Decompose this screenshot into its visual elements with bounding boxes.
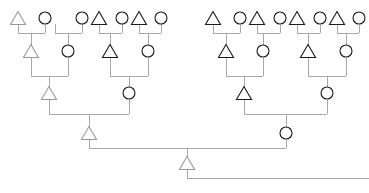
circle-node-icon[interactable] — [340, 45, 352, 57]
triangle-node-icon[interactable] — [250, 12, 265, 25]
circle-node-icon[interactable] — [116, 12, 128, 24]
circle-node-icon[interactable] — [39, 12, 51, 24]
triangle-node-icon[interactable] — [180, 157, 195, 170]
circle-node-icon[interactable] — [155, 12, 167, 24]
triangle-node-icon[interactable] — [103, 45, 118, 58]
triangle-node-icon[interactable] — [42, 87, 57, 100]
circle-node-icon[interactable] — [353, 12, 365, 24]
triangle-node-icon[interactable] — [132, 12, 147, 25]
triangle-node-icon[interactable] — [82, 127, 97, 140]
circle-node-icon[interactable] — [234, 12, 246, 24]
circle-node-icon[interactable] — [314, 12, 326, 24]
pedigree-canvas — [0, 0, 369, 193]
triangle-node-icon[interactable] — [237, 87, 252, 100]
triangle-node-icon[interactable] — [290, 12, 305, 25]
triangle-node-icon[interactable] — [219, 45, 234, 58]
triangle-node-icon[interactable] — [301, 45, 316, 58]
circle-node-icon[interactable] — [280, 127, 292, 139]
triangle-node-icon[interactable] — [206, 12, 221, 25]
circle-node-icon[interactable] — [62, 45, 74, 57]
triangle-node-icon[interactable] — [92, 12, 107, 25]
circle-node-icon[interactable] — [76, 12, 88, 24]
pedigree-diagram — [0, 0, 369, 193]
circle-node-icon[interactable] — [274, 12, 286, 24]
pedigree-nodes-layer — [11, 12, 366, 170]
circle-node-icon[interactable] — [257, 45, 269, 57]
circle-node-icon[interactable] — [142, 45, 154, 57]
circle-node-icon[interactable] — [123, 87, 135, 99]
triangle-node-icon[interactable] — [330, 12, 345, 25]
triangle-node-icon[interactable] — [24, 45, 39, 58]
circle-node-icon[interactable] — [321, 87, 333, 99]
triangle-node-icon[interactable] — [11, 12, 26, 25]
